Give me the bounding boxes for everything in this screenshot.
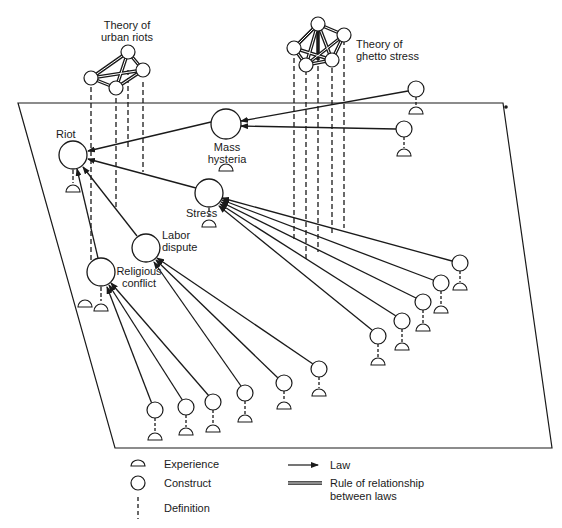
label-line: Labor <box>162 229 197 241</box>
label-line: Mass <box>205 141 249 153</box>
theory-urban-riots-label: Theory of urban riots <box>90 19 164 43</box>
theory-label-line: ghetto stress <box>356 50 419 62</box>
label-line: Religious <box>114 265 164 277</box>
theory-label-line: urban riots <box>90 31 164 43</box>
labor-dispute-label: Labor dispute <box>162 229 197 253</box>
label-line: dispute <box>162 241 197 253</box>
construct-mass-hysteria <box>211 109 241 139</box>
legend-rule-line: Rule of relationship <box>330 477 424 490</box>
experience-icon <box>131 460 145 466</box>
construct-stress <box>195 179 223 207</box>
stress-label: Stress <box>186 207 217 219</box>
theory-label-line: Theory of <box>90 19 164 31</box>
theory-ghetto-stress-cluster <box>287 17 351 72</box>
legend-experience: Experience <box>164 458 219 471</box>
plane-corner-dot <box>504 105 508 109</box>
label-line: conflict <box>114 277 164 289</box>
construct-riot <box>59 141 87 169</box>
riot-label: Riot <box>56 128 76 140</box>
peripheral-nodes <box>147 81 468 440</box>
construct-labor-dispute <box>132 234 160 262</box>
theory-ghetto-stress-label: Theory of ghetto stress <box>356 38 419 62</box>
legend-law: Law <box>330 459 350 472</box>
legend-definition: Definition <box>164 502 210 515</box>
theory-urban-riots-cluster <box>84 45 150 95</box>
diagram-canvas <box>0 0 562 528</box>
mass-hysteria-label: Mass hysteria <box>205 141 249 165</box>
legend-rule: Rule of relationship between laws <box>330 477 424 503</box>
religious-conflict-label: Religious conflict <box>114 265 164 289</box>
urban-riots-projections <box>91 70 143 260</box>
legend-rule-line: between laws <box>330 490 424 503</box>
construct-icon <box>131 476 145 490</box>
theory-label-line: Theory of <box>356 38 419 50</box>
construct-religious-conflict <box>87 258 115 286</box>
label-line: hysteria <box>205 153 249 165</box>
legend-symbols <box>131 460 322 519</box>
legend-construct: Construct <box>164 477 211 490</box>
